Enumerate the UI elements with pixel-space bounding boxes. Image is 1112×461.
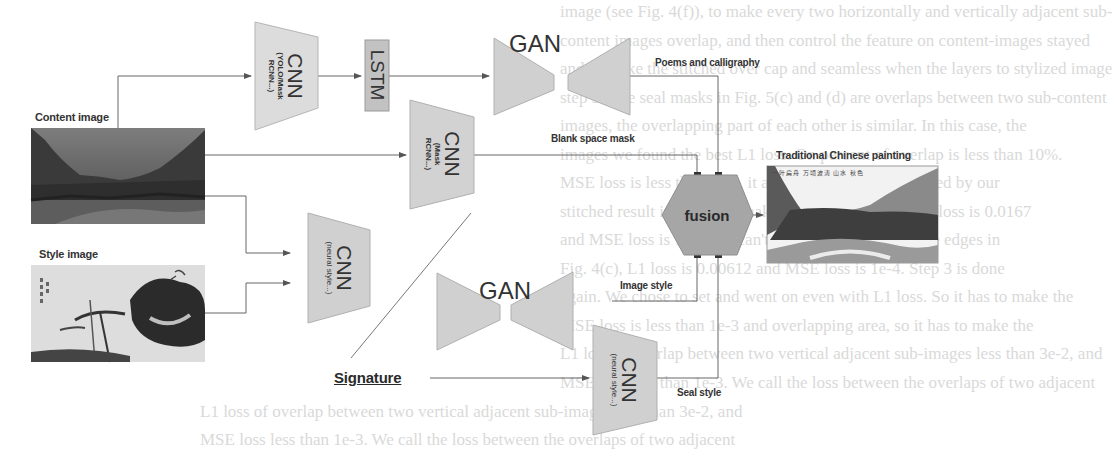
cnn-style-subtitle: (neural style...): [325, 242, 334, 295]
edge-content-to-cnn-detect: [118, 76, 251, 128]
cnn-detect-subtitle: (YOLO/Mask: [276, 52, 285, 100]
edge-blank-mask-to-fusion: [474, 155, 697, 175]
edge-content-to-cnn-style: [205, 196, 290, 253]
cnn-detect-subtitle-2: RCNN...): [267, 52, 276, 100]
gan-top-discriminator: [568, 38, 630, 115]
cnn-detect-title: CNN: [285, 52, 306, 100]
output-painting: [767, 166, 938, 263]
image-style-label: Image style: [620, 280, 672, 291]
cnn-seal-text: CNN (neural style...): [610, 354, 640, 407]
seal-style-label: Seal style: [677, 387, 721, 398]
cnn-seal-subtitle: (neural style...): [610, 354, 619, 407]
edge-style-to-cnn-style: [205, 283, 290, 313]
fusion-title: fusion: [685, 207, 730, 224]
cnn-mask-text: CNN (Mask RCNN...): [424, 131, 463, 177]
edge-image-style-to-fusion: [612, 255, 697, 301]
cnn-mask-subtitle-2: RCNN...): [424, 131, 433, 177]
cnn-mask-title: CNN: [442, 131, 463, 177]
edge-poems-to-fusion: [630, 76, 718, 175]
lstm-title: LSTM: [366, 50, 388, 101]
cnn-style-text: CNN (neural style...): [325, 242, 355, 295]
painting-inscription: 一叶扁舟 万顷波涛 山水 秋色: [772, 168, 864, 177]
blank-space-mask-label: Blank space mask: [551, 133, 635, 144]
cnn-detect-text: CNN (YOLO/Mask RCNN...): [267, 52, 306, 100]
style-image-label: Style image: [39, 248, 98, 260]
poems-calligraphy-label: Poems and calligraphy: [655, 57, 760, 68]
gan-bottom-title: GAN: [479, 277, 531, 305]
content-image: [31, 128, 205, 224]
style-image: [31, 265, 205, 362]
content-image-label: Content image: [35, 111, 109, 123]
cnn-seal-title: CNN: [619, 354, 640, 407]
cnn-style-title: CNN: [334, 242, 355, 295]
output-painting-label: Traditional Chinese painting: [776, 149, 911, 161]
gan-top-title: GAN: [509, 30, 561, 58]
edge-seal-style-to-fusion: [657, 255, 718, 378]
signature-label: Signature: [334, 369, 401, 386]
